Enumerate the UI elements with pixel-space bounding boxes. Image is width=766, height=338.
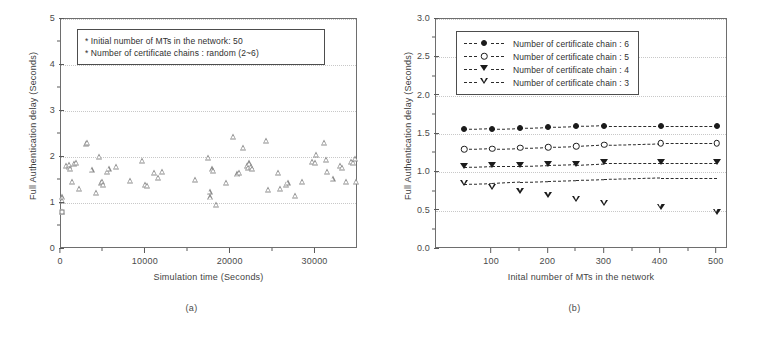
- x-axis-title-a: Simulation time (Seconds): [60, 272, 357, 282]
- x-tick-mark: [144, 248, 145, 253]
- y-tick-mark: [434, 94, 439, 95]
- y-tick-mark-minor: [432, 152, 435, 153]
- series-marker: [657, 204, 665, 210]
- x-tick-label: 0: [57, 256, 62, 266]
- scatter-point: [249, 165, 255, 171]
- series-marker: [713, 209, 721, 215]
- x-tick-minor: [631, 248, 632, 251]
- x-tick-mark: [229, 248, 230, 253]
- y-tick-mark-minor: [432, 228, 435, 229]
- scatter-point: [352, 155, 358, 161]
- y-tick: 3.0: [404, 13, 439, 23]
- legend-line-right: [491, 43, 504, 44]
- x-tick-mark: [547, 248, 548, 253]
- y-tick-mark: [59, 156, 64, 157]
- legend-item-1[interactable]: Number of certificate chain : 6: [464, 37, 629, 50]
- y-tick-mark: [59, 64, 64, 65]
- y-tick: 0.5: [404, 205, 439, 215]
- legend-marker: [481, 40, 487, 46]
- scatter-point: [113, 164, 119, 170]
- legend-item-3[interactable]: Number of certificate chain : 4: [464, 63, 629, 76]
- legend-marker: [480, 65, 488, 71]
- x-tick-mark: [715, 248, 716, 253]
- scatter-point: [292, 192, 298, 198]
- legend-b: Number of certificate chain : 6Number of…: [456, 31, 639, 95]
- y-tick-mark: [59, 110, 64, 111]
- y-tick-label: 0: [29, 243, 59, 253]
- series-marker: [544, 192, 552, 198]
- x-tick: 300: [596, 248, 612, 266]
- scatter-point: [213, 201, 219, 207]
- x-tick: 0: [57, 248, 62, 266]
- legend-marker: [481, 53, 488, 60]
- x-tick: 10000: [132, 248, 158, 266]
- x-tick-label: 10000: [132, 256, 158, 266]
- gridline: [61, 19, 356, 20]
- y-tick-minor: [57, 133, 60, 134]
- x-tick-label: 500: [708, 256, 724, 266]
- y-tick-minor: [432, 190, 435, 191]
- scatter-point: [223, 179, 229, 185]
- scatter-point: [139, 157, 145, 163]
- scatter-point: [240, 145, 246, 151]
- legend-marker-sample: [464, 37, 504, 50]
- series-marker: [460, 180, 468, 186]
- scatter-point: [144, 182, 150, 188]
- legend-label: Number of certificate chain : 4: [513, 65, 629, 75]
- x-tick-minor: [519, 248, 520, 251]
- y-tick-mark: [434, 56, 439, 57]
- x-tick-mark-minor: [102, 248, 103, 251]
- annotation-line-2: * Number of certificate chains : random …: [85, 47, 316, 59]
- scatter-point: [299, 178, 305, 184]
- scatter-point: [207, 194, 213, 200]
- scatter-point: [192, 176, 198, 182]
- scatter-point: [230, 133, 236, 139]
- legend-marker-sample: [464, 63, 504, 76]
- y-tick: 5: [29, 13, 64, 23]
- scatter-point: [236, 169, 242, 175]
- scatter-point-square: [60, 210, 65, 215]
- y-tick-mark-minor: [57, 87, 60, 88]
- scatter-point: [339, 164, 345, 170]
- legend-line-right: [491, 56, 504, 57]
- legend-line-left: [464, 43, 477, 44]
- legend-label: Number of certificate chain : 3: [513, 78, 629, 88]
- x-tick-mark-minor: [272, 248, 273, 251]
- y-tick-mark-minor: [57, 179, 60, 180]
- scatter-point: [76, 186, 82, 192]
- legend-line-left: [464, 82, 477, 83]
- x-tick-mark: [659, 248, 660, 253]
- series-segment: [604, 178, 660, 181]
- x-tick-minor: [187, 248, 188, 251]
- y-tick-mark-minor: [57, 225, 60, 226]
- plot-area-a: * Initial number of MTs in the network: …: [60, 18, 357, 248]
- y-tick-minor: [432, 37, 435, 38]
- x-tick: 20000: [217, 248, 243, 266]
- y-tick-label: 3.0: [404, 13, 434, 23]
- series-marker: [600, 200, 608, 206]
- x-tick-mark-minor: [631, 248, 632, 251]
- series-marker: [572, 196, 580, 202]
- scatter-point: [353, 178, 359, 184]
- scatter-point: [343, 178, 349, 184]
- annotation-line-1: * Initial number of MTs in the network: …: [85, 35, 316, 47]
- legend-item-2[interactable]: Number of certificate chain : 5: [464, 50, 629, 63]
- plot-area-b: Number of certificate chain : 6Number of…: [435, 18, 727, 248]
- y-tick-minor: [432, 113, 435, 114]
- scatter-point: [127, 177, 133, 183]
- x-tick-minor: [102, 248, 103, 251]
- legend-line-left: [464, 56, 477, 57]
- series-marker: [516, 188, 524, 194]
- legend-item-4[interactable]: Number of certificate chain : 3: [464, 76, 629, 89]
- x-tick: 30000: [302, 248, 328, 266]
- series-segment: [661, 178, 717, 179]
- scatter-point: [73, 159, 79, 165]
- y-tick-mark-minor: [432, 75, 435, 76]
- scatter-point: [210, 167, 216, 173]
- legend-label: Number of certificate chain : 6: [513, 39, 629, 49]
- scatter-point: [285, 179, 291, 185]
- x-tick-label: 30000: [302, 256, 328, 266]
- series-segment: [576, 179, 604, 181]
- x-tick: 500: [708, 248, 724, 266]
- annotation-box-a: * Initial number of MTs in the network: …: [77, 29, 325, 65]
